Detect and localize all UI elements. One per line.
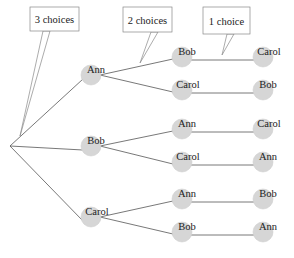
callout-pointer (222, 34, 234, 55)
node-label: Carol (257, 118, 280, 129)
edge-root-to-bob (10, 146, 83, 150)
node-level1-ann: Ann (81, 64, 106, 85)
edge-root-to-ann (10, 79, 83, 146)
node-level1-bob: Bob (81, 135, 105, 156)
node-level3-carol: Carol (253, 46, 281, 67)
callout-label: 1 choice (209, 16, 245, 27)
node-level3-bob: Bob (253, 188, 277, 209)
node-label: Bob (178, 221, 196, 232)
node-label: Ann (178, 118, 197, 129)
edge-l1-to-l2 (100, 59, 173, 75)
callout-label: 2 choices (128, 15, 167, 26)
node-level2-carol: Carol (172, 79, 200, 100)
node-level2-carol: Carol (172, 151, 200, 172)
node-label: Ann (259, 221, 278, 232)
node-level2-ann: Ann (172, 118, 197, 139)
node-level3-carol: Carol (253, 118, 281, 139)
node-label: Bob (178, 46, 196, 57)
node-label: Ann (87, 64, 106, 75)
callout-pointer (20, 31, 50, 136)
callout-3-choices: 3 choices (20, 7, 79, 136)
edge-l1-to-l2 (100, 131, 173, 146)
node-label: Ann (259, 151, 278, 162)
node-label: Carol (85, 206, 108, 217)
node-level3-bob: Bob (253, 79, 277, 100)
choice-callouts: 3 choices2 choices1 choice (20, 7, 250, 136)
node-label: Carol (257, 46, 280, 57)
node-level2-bob: Bob (172, 46, 196, 67)
edge-l1-to-l2 (100, 217, 173, 234)
edge-l1-to-l2 (100, 75, 173, 92)
node-label: Bob (259, 79, 277, 90)
edge-l1-to-l2 (100, 201, 173, 217)
callout-pointer (140, 32, 158, 63)
node-level3-ann: Ann (253, 221, 278, 242)
node-level3-ann: Ann (253, 151, 278, 172)
node-level1-carol: Carol (81, 206, 109, 227)
node-label: Bob (87, 135, 105, 146)
node-label: Carol (176, 151, 199, 162)
edge-l1-to-l2 (100, 146, 173, 164)
tree-diagram: AnnBobCarolBobCarolAnnCarolAnnBobCarolBo… (0, 0, 294, 258)
node-label: Ann (178, 188, 197, 199)
node-label: Carol (176, 79, 199, 90)
callout-1-choice: 1 choice (203, 7, 250, 55)
node-label: Bob (259, 188, 277, 199)
node-level2-bob: Bob (172, 221, 196, 242)
node-level2-ann: Ann (172, 188, 197, 209)
callout-2-choices: 2 choices (123, 7, 172, 63)
edge-root-to-carol (10, 146, 83, 221)
callout-label: 3 choices (35, 14, 74, 25)
tree-edges (10, 59, 254, 235)
